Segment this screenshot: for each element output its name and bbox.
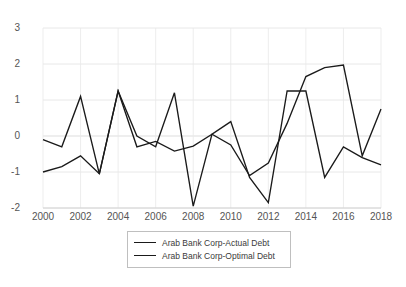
- y-tick-label: 2: [0, 59, 20, 69]
- x-tick-label: 2018: [361, 211, 401, 222]
- chart-legend: Arab Bank Corp-Actual Debt Arab Bank Cor…: [127, 231, 291, 268]
- y-tick-label: -2: [0, 203, 20, 213]
- x-tick-label: 2002: [61, 211, 101, 222]
- x-tick-label: 2016: [323, 211, 363, 222]
- legend-item-actual-debt: Arab Bank Corp-Actual Debt: [134, 236, 284, 249]
- series-line-actual-debt: [43, 91, 381, 206]
- legend-label-actual: Arab Bank Corp-Actual Debt: [162, 238, 269, 248]
- y-tick-label: 3: [0, 23, 20, 33]
- x-tick-label: 2014: [286, 211, 326, 222]
- x-tick-label: 2004: [98, 211, 138, 222]
- y-tick-label: -1: [0, 167, 20, 177]
- x-tick-label: 2012: [248, 211, 288, 222]
- x-tick-label: 2008: [173, 211, 213, 222]
- x-tick-label: 2006: [136, 211, 176, 222]
- x-tick-label: 2010: [211, 211, 251, 222]
- legend-item-optimal-debt: Arab Bank Corp-Optimal Debt: [134, 249, 284, 262]
- legend-line-swatch-optimal: [134, 255, 156, 256]
- y-tick-label: 1: [0, 95, 20, 105]
- x-tick-label: 2000: [23, 211, 63, 222]
- line-chart: 3210-1-2 2000200220042006200820102012201…: [0, 0, 406, 287]
- series-line-optimal-debt: [43, 65, 381, 176]
- plot-area: [43, 28, 381, 208]
- chart-series-layer: [43, 28, 381, 208]
- legend-line-swatch-actual: [134, 242, 156, 243]
- y-tick-label: 0: [0, 131, 20, 141]
- legend-label-optimal: Arab Bank Corp-Optimal Debt: [162, 251, 275, 261]
